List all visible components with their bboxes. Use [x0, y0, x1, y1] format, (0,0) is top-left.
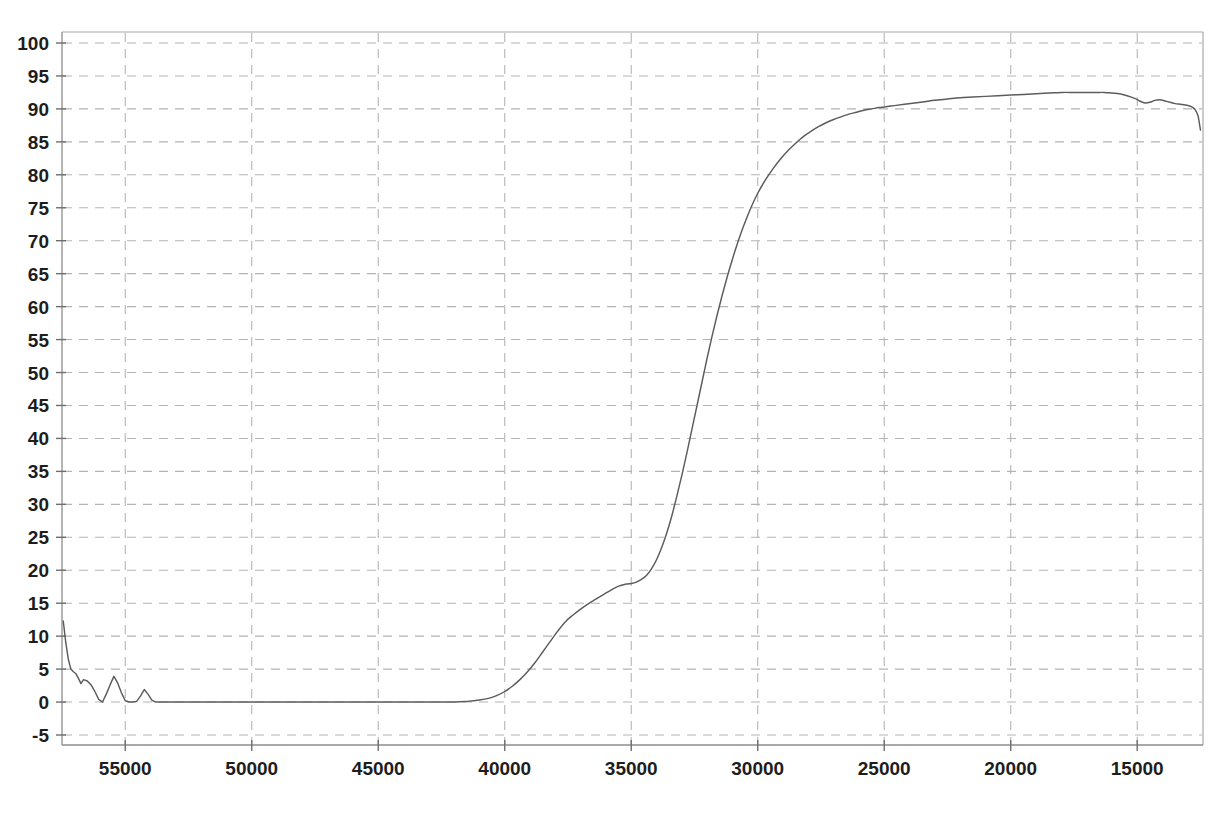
- y-tick-label: 15: [28, 593, 50, 614]
- y-tick-label: 20: [28, 560, 49, 581]
- y-tick-label: 35: [28, 461, 50, 482]
- x-tick-label: 40000: [478, 758, 531, 779]
- y-tick-label: 40: [28, 428, 49, 449]
- y-tick-label: 5: [38, 659, 49, 680]
- x-tick-label: 50000: [225, 758, 278, 779]
- plot-frame: [62, 32, 1203, 745]
- grid-lines: [63, 33, 1202, 744]
- y-tick-label: 85: [28, 132, 50, 153]
- y-tick-label: 50: [28, 363, 49, 384]
- x-tick-label: 35000: [605, 758, 658, 779]
- x-tick-label: 30000: [731, 758, 784, 779]
- y-tick-label: 30: [28, 494, 49, 515]
- transmittance-curve: [63, 92, 1200, 702]
- x-tick-label: 25000: [858, 758, 911, 779]
- y-axis-tick-labels: -505101520253035404550556065707580859095…: [17, 33, 49, 746]
- y-tick-label: 45: [28, 395, 50, 416]
- x-axis-tick-labels: 5500050000450004000035000300002500020000…: [99, 758, 1164, 779]
- spectrum-chart: -505101520253035404550556065707580859095…: [0, 0, 1229, 819]
- x-tick-label: 20000: [984, 758, 1037, 779]
- y-tick-label: 75: [28, 198, 50, 219]
- y-tick-label: 90: [28, 99, 49, 120]
- y-tick-label: 55: [28, 330, 50, 351]
- y-tick-label: 95: [28, 66, 50, 87]
- chart-canvas: -505101520253035404550556065707580859095…: [0, 0, 1229, 819]
- y-tick-label: 70: [28, 231, 49, 252]
- y-tick-label: 60: [28, 297, 49, 318]
- y-tick-label: 80: [28, 165, 49, 186]
- x-tick-label: 55000: [99, 758, 152, 779]
- y-tick-label: 0: [38, 692, 49, 713]
- y-tick-label: 65: [28, 264, 50, 285]
- y-tick-label: 25: [28, 527, 50, 548]
- y-tick-label: -5: [32, 725, 49, 746]
- y-tick-label: 100: [17, 33, 49, 54]
- x-tick-label: 15000: [1111, 758, 1164, 779]
- data-series-line: [63, 92, 1200, 702]
- tick-marks: [56, 43, 1137, 751]
- x-tick-label: 45000: [352, 758, 405, 779]
- y-tick-label: 10: [28, 626, 49, 647]
